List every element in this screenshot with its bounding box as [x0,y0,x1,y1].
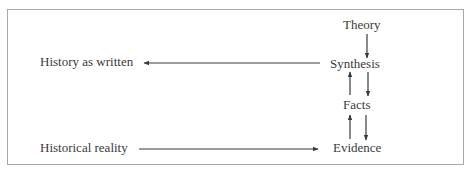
arrows-layer [0,0,471,172]
